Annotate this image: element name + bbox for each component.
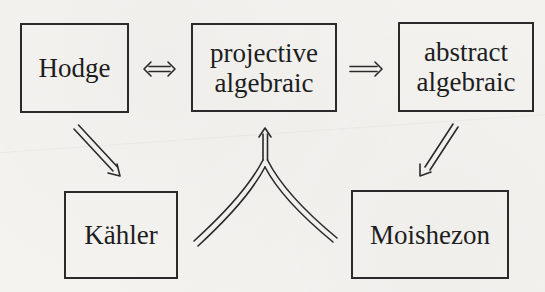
- double-arrow-abstract-to-moishezon-icon: [420, 124, 458, 176]
- node-abstract-algebraic-line1: abstract: [417, 37, 516, 67]
- node-moishezon: Moishezon: [351, 190, 509, 279]
- double-arrow-equivalence-icon: [144, 62, 175, 76]
- node-abstract-algebraic-line2: algebraic: [417, 67, 516, 97]
- node-projective-algebraic: projective algebraic: [191, 23, 337, 112]
- node-kahler-label: Kähler: [84, 220, 157, 250]
- node-kahler: Kähler: [64, 191, 178, 279]
- node-abstract-algebraic: abstract algebraic: [398, 22, 534, 112]
- merging-double-arrow-icon: [194, 128, 337, 246]
- node-projective-algebraic-line2: algebraic: [210, 68, 318, 98]
- node-projective-algebraic-line1: projective: [210, 38, 318, 68]
- node-hodge-label: Hodge: [39, 53, 111, 83]
- double-arrow-implies-icon: [350, 62, 382, 76]
- double-arrow-hodge-to-kahler-icon: [74, 125, 120, 176]
- node-hodge: Hodge: [20, 23, 129, 113]
- node-moishezon-label: Moishezon: [370, 220, 490, 250]
